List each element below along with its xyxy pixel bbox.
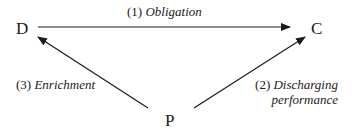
label-text: performance	[272, 92, 338, 107]
label-discharging-performance: (2) Discharging performance	[255, 77, 338, 107]
label-line-2: performance	[255, 92, 338, 107]
label-obligation: (1) Obligation	[127, 4, 202, 19]
label-line-1: (2) Discharging	[255, 77, 338, 92]
label-text: Discharging	[273, 77, 338, 92]
label-text: Enrichment	[34, 77, 95, 92]
label-number: (2)	[255, 77, 270, 92]
diagram-canvas	[0, 0, 352, 130]
node-d: D	[16, 20, 28, 37]
label-number: (1)	[127, 4, 142, 19]
label-number: (3)	[16, 77, 31, 92]
arrow-enrichment	[38, 37, 148, 108]
node-p: P	[165, 112, 174, 129]
node-c: C	[311, 20, 322, 37]
label-enrichment: (3) Enrichment	[16, 77, 95, 92]
label-text: Obligation	[145, 4, 201, 19]
